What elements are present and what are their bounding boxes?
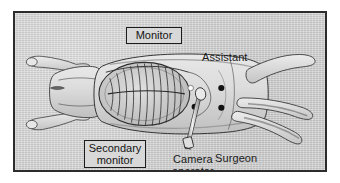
port-site-3 [218, 105, 224, 111]
monitor-position-label: Monitor [126, 27, 182, 44]
snout-tip [51, 87, 65, 90]
camera-operator-position-label: Camera operator [172, 153, 214, 172]
hindlimb-upper [246, 54, 315, 83]
rib-cage [99, 62, 190, 125]
secondary-monitor-position-label: Secondary monitor [84, 140, 146, 168]
surgeon-position-label: Surgeon [215, 152, 257, 164]
assistant-position-label: Assistant [202, 51, 248, 63]
port-site-2 [218, 85, 224, 91]
figure-frame: Monitor Secondary monitor Assistant Surg… [13, 11, 327, 172]
port-site-highlight [188, 85, 194, 91]
